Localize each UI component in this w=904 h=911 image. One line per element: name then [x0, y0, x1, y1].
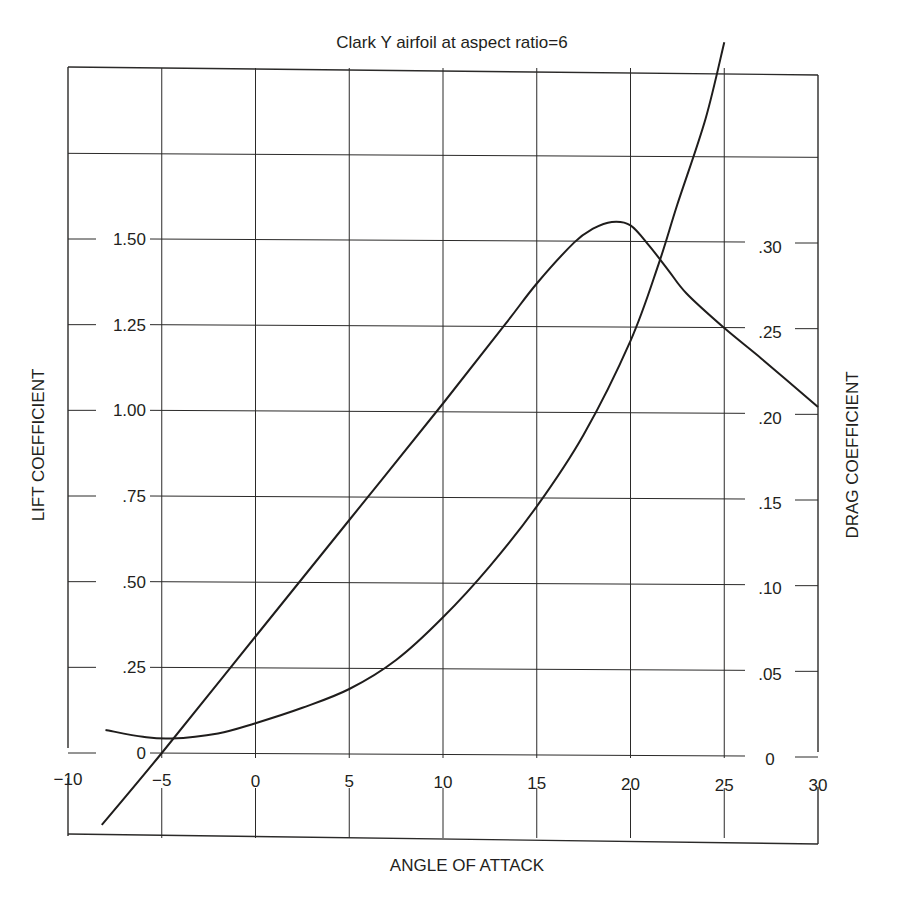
- h-grid-line: [150, 667, 745, 670]
- right-tick-label: .20: [758, 409, 782, 428]
- lift-drag-chart: −10−5051015202530 0.25.50.751.001.251.50…: [0, 0, 904, 911]
- h-grid-line: [150, 239, 745, 242]
- x-tick-label: 30: [809, 776, 828, 795]
- h-grid-line: [150, 753, 745, 756]
- right-tick-label: .05: [758, 665, 782, 684]
- left-tick-label: .50: [122, 573, 146, 592]
- data-curves: [102, 42, 818, 825]
- right-tick-label: .25: [758, 323, 782, 342]
- left-axis-ticks: 0.25.50.751.001.251.50: [113, 230, 146, 763]
- h-grid-line: [150, 582, 745, 585]
- h-grid-line: [150, 410, 745, 413]
- x-tick-label: 10: [434, 773, 453, 792]
- x-tick-label: 0: [251, 772, 260, 791]
- left-tick-label: 1.50: [113, 230, 146, 249]
- y-axis-label-right: DRAG COEFFICIENT: [843, 371, 863, 538]
- right-tick-label: .30: [758, 238, 782, 257]
- drag-curve: [106, 42, 725, 738]
- y-axis-label-left: LIFT COEFFICIENT: [29, 369, 49, 522]
- right-axis-ticks: 0.05.10.15.20.25.30: [758, 238, 782, 769]
- x-tick-label: −5: [152, 771, 171, 790]
- right-tick-label: .10: [758, 579, 782, 598]
- left-tick-label: .25: [122, 658, 146, 677]
- left-tick-label: 1.00: [113, 401, 146, 420]
- x-tick-label: 20: [621, 775, 640, 794]
- x-tick-label: 25: [715, 776, 734, 795]
- x-tick-label: 15: [527, 774, 546, 793]
- x-tick-label: −10: [54, 770, 83, 789]
- x-axis-ticks: −10−5051015202530: [54, 770, 828, 795]
- left-tick-label: .75: [122, 487, 146, 506]
- right-tick-label: .15: [758, 494, 782, 513]
- h-grid-line: [150, 325, 745, 328]
- grid-lines: [68, 68, 818, 838]
- x-tick-label: 5: [345, 772, 354, 791]
- left-tick-label: 1.25: [113, 316, 146, 335]
- x-axis-label: ANGLE OF ATTACK: [0, 856, 904, 876]
- left-tick-label: 0: [137, 744, 146, 763]
- h-grid-line: [150, 496, 745, 499]
- right-tick-label: 0: [765, 750, 774, 769]
